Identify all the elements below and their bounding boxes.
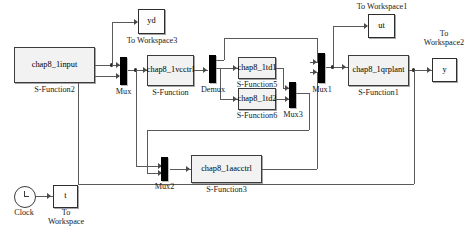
block-aacctrl[interactable]: chap8_1aacctrl	[191, 155, 262, 183]
mux-bar-mux1[interactable]	[318, 53, 325, 83]
arrow-demux-in	[203, 67, 207, 73]
caption-s-function: S-Function	[142, 89, 199, 98]
arrow-td2-in	[233, 96, 237, 102]
block-aacctrl-label: chap8_1aacctrl	[201, 165, 252, 173]
block-input[interactable]: chap8_1input	[14, 47, 95, 83]
arrow-aacctrl-in	[186, 166, 190, 172]
clock-hand-hour	[24, 196, 29, 197]
wire-to-ut	[333, 26, 367, 27]
label-mux1: Mux1	[305, 86, 339, 95]
arrow-mux1-in1	[313, 59, 317, 65]
caption-clock: Clock	[6, 209, 42, 218]
wire-feedback-down	[414, 70, 415, 184]
wire-aacctrl-out	[262, 169, 317, 170]
block-qrplant-label: chap8_1qrplant	[352, 66, 404, 74]
block-ut-label: ut	[378, 22, 385, 30]
block-td2[interactable]: chap8_1td2	[238, 88, 276, 110]
block-vcctrl[interactable]: chap8_1vcctrl	[147, 55, 194, 86]
arrow-y-in	[427, 67, 431, 73]
wire-to-yd	[112, 22, 137, 23]
mux-bar-mux[interactable]	[120, 57, 127, 85]
block-y-label: y	[442, 66, 446, 74]
wire-demux-out1-over	[224, 38, 318, 39]
caption-s-function2: S-Function2	[14, 86, 95, 95]
caption-to-workspace1: To Workspace1	[343, 3, 421, 12]
block-t[interactable]: t	[53, 185, 78, 208]
label-mux: Mux	[106, 88, 141, 97]
mux-bar-demux[interactable]	[209, 55, 216, 83]
caption-to-workspace2-line2: Workspace2	[417, 39, 471, 48]
block-td1[interactable]: chap8_1td1	[238, 57, 276, 79]
wire-demux-out1	[216, 60, 224, 61]
label-demux: Demux	[196, 86, 230, 95]
arrow-td1-in	[233, 65, 237, 71]
caption-s-function1: S-Function1	[348, 89, 409, 98]
caption-to-workspace-line2: Workspace	[41, 218, 91, 227]
arrow-mux1-in2	[313, 69, 317, 75]
label-mux3: Mux3	[276, 111, 310, 120]
clock-icon[interactable]	[14, 186, 36, 208]
block-vcctrl-label: chap8_1vcctrl	[147, 66, 194, 74]
caption-to-workspace3: To Workspace3	[113, 37, 191, 46]
mux-bar-mux3[interactable]	[289, 82, 296, 108]
block-td2-label: chap8_1td2	[237, 95, 276, 103]
wire-mux3-left	[147, 130, 309, 131]
wire-mux-branch-down	[136, 70, 137, 166]
simulink-diagram-canvas: chap8_1input S-Function2 yd To Workspace…	[0, 0, 471, 228]
block-td1-label: chap8_1td1	[237, 64, 276, 72]
wire-mux3-down2	[147, 130, 148, 173]
block-ut[interactable]: ut	[368, 14, 395, 38]
label-mux2: Mux2	[147, 183, 182, 192]
block-yd-label: yd	[147, 17, 155, 25]
block-input-label: chap8_1input	[32, 61, 78, 69]
caption-to-workspace: To Workspace	[41, 209, 91, 226]
arrow-t-in	[47, 193, 51, 199]
wire-branch-up-ut	[333, 26, 334, 67]
block-t-label: t	[64, 192, 66, 200]
mux-bar-mux2[interactable]	[161, 157, 168, 181]
block-yd[interactable]: yd	[138, 9, 165, 34]
caption-to-workspace2: To Workspace2	[417, 30, 471, 47]
caption-s-function3: S-Function3	[191, 186, 262, 195]
arrow-qrplant-in	[342, 64, 346, 70]
block-qrplant[interactable]: chap8_1qrplant	[348, 55, 409, 86]
wire-demux-out1-up	[224, 38, 225, 60]
block-y[interactable]: y	[432, 58, 457, 82]
